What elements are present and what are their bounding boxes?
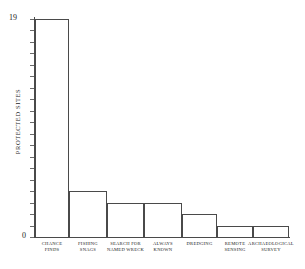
y-axis-title: PROTECTED SITES xyxy=(14,67,21,177)
x-axis-category-label-line: KNOWN xyxy=(133,247,193,253)
y-axis-tick xyxy=(30,168,34,169)
y-axis-tick xyxy=(30,237,34,238)
y-axis-tick xyxy=(30,145,34,146)
chart-page: 19 0 PROTECTED SITES CHANCEFINDSFISHINGS… xyxy=(0,0,305,269)
y-axis-tick xyxy=(30,30,34,31)
bar xyxy=(253,226,289,237)
y-axis-tick xyxy=(30,191,34,192)
y-axis-tick xyxy=(30,53,34,54)
y-axis-min-label: 0 xyxy=(22,231,26,240)
bar xyxy=(107,203,144,237)
y-axis-tick xyxy=(30,180,34,181)
y-axis-tick xyxy=(30,226,34,227)
y-axis-tick xyxy=(30,122,34,123)
y-axis-tick xyxy=(30,203,34,204)
y-axis-tick xyxy=(30,19,34,20)
bar xyxy=(69,191,107,237)
x-axis-category-label-line: SURVEY xyxy=(241,247,301,253)
y-axis-tick xyxy=(30,65,34,66)
plot-area xyxy=(35,19,289,237)
bar xyxy=(182,214,217,237)
y-axis-tick xyxy=(30,88,34,89)
x-axis-category-label: ARCHAEOLOGICALSURVEY xyxy=(241,241,301,254)
y-axis-tick xyxy=(30,134,34,135)
y-axis-tick xyxy=(30,76,34,77)
y-axis-tick xyxy=(30,42,34,43)
bar xyxy=(35,19,69,237)
y-axis-tick xyxy=(30,99,34,100)
y-axis-tick xyxy=(30,111,34,112)
y-axis-tick xyxy=(30,214,34,215)
y-axis-max-label: 19 xyxy=(9,13,17,22)
bar xyxy=(144,203,182,237)
x-axis-line xyxy=(34,237,290,238)
bar xyxy=(217,226,253,237)
y-axis-tick xyxy=(30,157,34,158)
